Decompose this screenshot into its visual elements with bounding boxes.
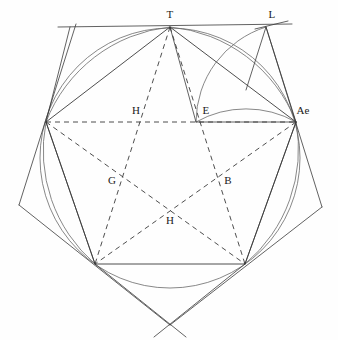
point-label-G: G — [108, 175, 116, 186]
extension-bl-down — [95, 264, 186, 337]
tangent-top — [58, 24, 292, 27]
point-label-H-upper: H — [132, 105, 140, 116]
segment-L-Ae — [266, 27, 296, 122]
point-label-H-lower: H — [166, 215, 174, 226]
diagonal-T-bl — [95, 27, 170, 264]
extension-left-up — [46, 27, 70, 122]
pentagon-side-T-left — [46, 27, 170, 122]
tangent-lines — [19, 21, 322, 337]
point-label-B: B — [224, 175, 232, 186]
geometric-figure: T L Ae H E G B H — [0, 0, 338, 340]
tangent-right-lower — [170, 207, 322, 325]
segment-left-down — [46, 122, 95, 264]
diagonal-T-br — [170, 27, 245, 264]
segment-Ae-br — [245, 122, 296, 264]
tick-at-L — [255, 21, 288, 29]
point-label-Ae: Ae — [296, 105, 309, 116]
construction-drawing — [0, 0, 338, 340]
extension-br-down — [154, 264, 245, 337]
diagonal-left-br — [46, 122, 245, 264]
point-label-T: T — [167, 9, 174, 20]
segment-T-E — [170, 27, 196, 122]
tangent-left-lower — [19, 205, 170, 325]
pentagon-side-T-Ae — [170, 27, 296, 122]
point-label-E: E — [203, 105, 210, 116]
point-label-L: L — [269, 9, 276, 20]
